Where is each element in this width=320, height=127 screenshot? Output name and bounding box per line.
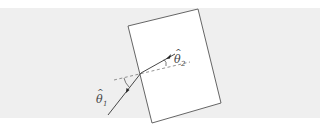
svg-text:^: ^ [175, 47, 182, 56]
svg-text:2: 2 [180, 60, 186, 68]
svg-text:^: ^ [97, 87, 104, 96]
refraction-diagram: θ ^ 2 θ ^ 1 [0, 0, 320, 127]
svg-text:1: 1 [103, 100, 107, 108]
